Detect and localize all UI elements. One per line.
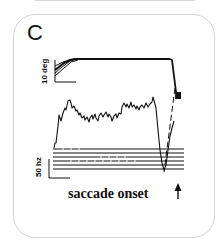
spike-raster bbox=[53, 149, 184, 169]
firing-rate-histogram bbox=[54, 97, 174, 170]
firing-rate-scale-label: 50 hz bbox=[34, 157, 43, 177]
saccade-onset-dashed-line bbox=[164, 88, 175, 172]
up-arrow-icon bbox=[175, 183, 182, 199]
eye-position-traces bbox=[55, 59, 181, 99]
eye-position-scale-label: 10 deg bbox=[40, 59, 49, 84]
neural-recording-figure bbox=[0, 0, 224, 251]
saccade-onset-label: saccade onset bbox=[68, 186, 149, 202]
